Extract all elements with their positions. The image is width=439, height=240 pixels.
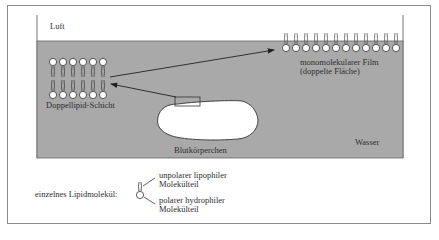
monolayer-label-line2: (doppelte Fläche) (300, 67, 360, 76)
legend-tail-label-line2: Molekülteil (159, 180, 199, 189)
bilayer-label: Doppellipid-Schicht (46, 101, 115, 110)
air-label: Luft (50, 22, 65, 31)
blood-cell-shape (158, 101, 258, 140)
legend-head-label-line2: Molekülteil (159, 205, 199, 214)
legend-lipid-icon (136, 178, 155, 204)
water-label: Wasser (355, 138, 379, 147)
blood-cell-label: Blutkörperchen (174, 146, 227, 155)
legend-molecule-label: einzelnes Lipidmolekül: (35, 190, 117, 199)
